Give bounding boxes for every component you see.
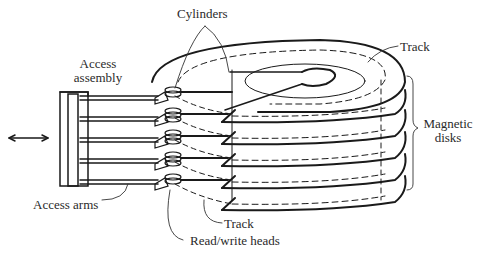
label-magnetic-disks-1: Magnetic xyxy=(418,117,478,131)
label-access-assembly-1: Access xyxy=(68,57,128,71)
label-access-arms: Access arms xyxy=(33,198,98,212)
access-arms-leader xyxy=(102,184,128,200)
label-track-bottom: Track xyxy=(224,217,254,231)
label-access-assembly-2: assembly xyxy=(68,71,128,85)
bidirectional-arrow-icon xyxy=(9,135,48,141)
label-cylinders: Cylinders xyxy=(177,7,228,21)
label-magnetic-disks-2: disks xyxy=(418,131,478,145)
label-track-top: Track xyxy=(400,40,430,54)
label-read-write-heads: Read/write heads xyxy=(190,234,280,248)
read-write-heads xyxy=(155,87,181,190)
disk-diagram: Cylinders Track Access assembly Magnetic… xyxy=(0,0,481,264)
read-write-heads-leader xyxy=(168,190,183,240)
magnetic-disks-brace xyxy=(407,76,418,190)
access-assembly xyxy=(60,92,88,186)
magnetic-disk-stack xyxy=(152,40,406,210)
track-bottom-leader xyxy=(204,200,222,223)
